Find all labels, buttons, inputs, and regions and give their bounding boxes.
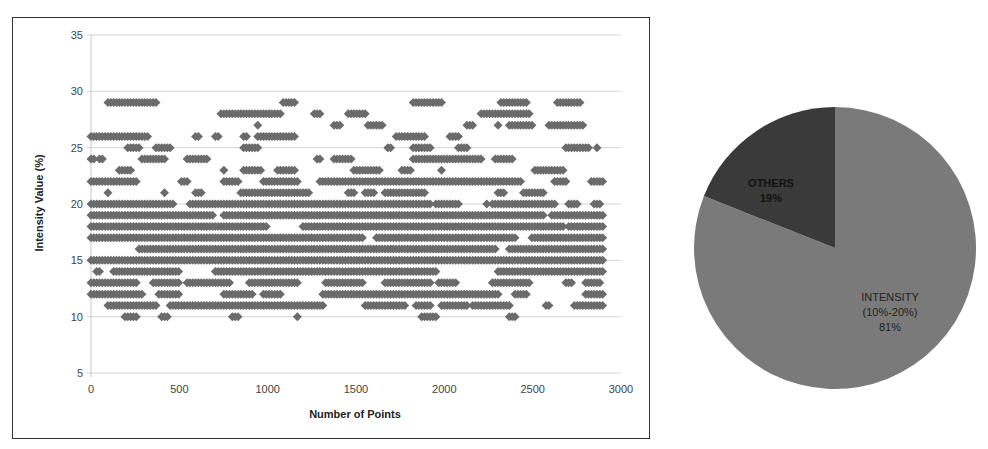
svg-text:30: 30 bbox=[71, 85, 83, 97]
x-axis-label: Number of Points bbox=[309, 408, 401, 420]
data-points bbox=[87, 98, 608, 321]
scatter-plot: 5101520253035 050010001500200025003000 N… bbox=[13, 18, 649, 438]
svg-text:500: 500 bbox=[170, 383, 188, 395]
x-axis-ticks: 050010001500200025003000 bbox=[88, 383, 633, 395]
scatter-chart: 5101520253035 050010001500200025003000 N… bbox=[12, 17, 650, 439]
pie-chart: OTHERS 19% INTENSITY (10%-20%) 81% bbox=[690, 103, 980, 393]
y-axis-label: Intensity Value (%) bbox=[33, 154, 45, 252]
svg-text:2000: 2000 bbox=[432, 383, 456, 395]
svg-text:35: 35 bbox=[71, 29, 83, 41]
svg-text:25: 25 bbox=[71, 142, 83, 154]
svg-text:20: 20 bbox=[71, 198, 83, 210]
svg-text:2500: 2500 bbox=[520, 383, 544, 395]
svg-text:1000: 1000 bbox=[255, 383, 279, 395]
svg-text:3000: 3000 bbox=[609, 383, 633, 395]
others-label: OTHERS bbox=[748, 177, 794, 189]
svg-text:15: 15 bbox=[71, 254, 83, 266]
svg-text:5: 5 bbox=[77, 367, 83, 379]
svg-text:10: 10 bbox=[71, 311, 83, 323]
intensity-range: (10%-20%) bbox=[862, 306, 917, 318]
svg-text:1500: 1500 bbox=[344, 383, 368, 395]
svg-text:0: 0 bbox=[88, 383, 94, 395]
intensity-value: 81% bbox=[879, 321, 901, 333]
intensity-label: INTENSITY bbox=[861, 291, 919, 303]
others-value: 19% bbox=[760, 192, 782, 204]
y-axis-ticks: 5101520253035 bbox=[71, 29, 83, 379]
